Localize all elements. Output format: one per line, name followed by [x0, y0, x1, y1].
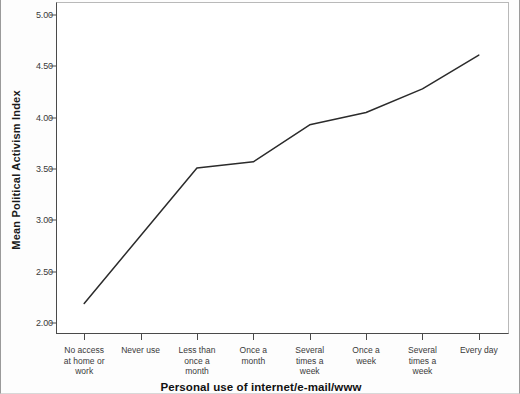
plot-area	[56, 2, 509, 334]
x-axis-tick-label-line: at home or	[56, 356, 112, 367]
x-axis-tick-label-line: Less than	[169, 345, 225, 356]
x-axis-tick-mark	[366, 334, 367, 340]
x-axis-tick-label-line: Once a	[338, 345, 394, 356]
x-axis-tick-label: No accessat home orwork	[56, 345, 112, 377]
y-axis-tick-label: 5.00	[19, 10, 53, 20]
x-axis-tick-mark	[197, 334, 198, 340]
x-axis-tick-label-line: month	[169, 366, 225, 377]
x-axis-tick-mark	[422, 334, 423, 340]
series-polyline	[84, 55, 479, 303]
x-axis-tick-label-line: Several	[282, 345, 338, 356]
x-axis-tick-label-line: month	[225, 356, 281, 367]
y-axis-tick-label: 2.50	[19, 267, 53, 277]
x-axis-tick-mark	[310, 334, 311, 340]
y-axis-tick-mark	[50, 271, 56, 272]
y-axis-tick-labels: 5.004.504.003.503.002.502.00	[17, 0, 53, 394]
y-axis-tick-mark	[50, 15, 56, 16]
x-axis-tick-label-line: Every day	[451, 345, 507, 356]
y-axis-tick-label: 3.50	[19, 164, 53, 174]
x-axis-tick-label-line: times a	[282, 356, 338, 367]
x-axis-tick-label-line: week	[394, 366, 450, 377]
y-axis-tick-mark	[50, 117, 56, 118]
x-axis-tick-label: Never use	[113, 345, 169, 356]
x-axis-title: Personal use of internet/e-mail/www	[1, 381, 520, 393]
x-axis-tick-label-line: week	[338, 356, 394, 367]
chart-figure: Mean Political Activism Index 5.004.504.…	[0, 0, 520, 394]
x-axis-tick-label: Once amonth	[225, 345, 281, 366]
y-axis-tick-mark	[50, 220, 56, 221]
x-axis-tick-label-line: No access	[56, 345, 112, 356]
x-axis-tick-label-line: times a	[394, 356, 450, 367]
x-axis-tick-label-line: once a	[169, 356, 225, 367]
y-axis-tick-mark	[50, 323, 56, 324]
y-axis-tick-label: 2.00	[19, 318, 53, 328]
y-axis-tick-label: 4.00	[19, 113, 53, 123]
x-axis-tick-label-line: week	[282, 366, 338, 377]
x-axis-tick-mark	[141, 334, 142, 340]
line-series	[57, 3, 508, 333]
x-axis-tick-label-line: work	[56, 366, 112, 377]
y-axis-tick-label: 4.50	[19, 61, 53, 71]
y-axis-tick-mark	[50, 169, 56, 170]
x-axis-tick-label-line: Never use	[113, 345, 169, 356]
x-axis-tick-label-line: Several	[394, 345, 450, 356]
x-axis-tick-label: Less thanonce amonth	[169, 345, 225, 377]
x-axis-tick-mark	[479, 334, 480, 340]
x-axis-tick-label-line: Once a	[225, 345, 281, 356]
y-axis-tick-label: 3.00	[19, 215, 53, 225]
x-axis-tick-label: Severaltimes aweek	[394, 345, 450, 377]
x-axis-tick-mark	[253, 334, 254, 340]
x-axis-tick-label: Every day	[451, 345, 507, 356]
x-axis-tick-label: Once aweek	[338, 345, 394, 366]
x-axis-tick-mark	[84, 334, 85, 340]
x-axis-tick-label: Severaltimes aweek	[282, 345, 338, 377]
y-axis-tick-mark	[50, 66, 56, 67]
